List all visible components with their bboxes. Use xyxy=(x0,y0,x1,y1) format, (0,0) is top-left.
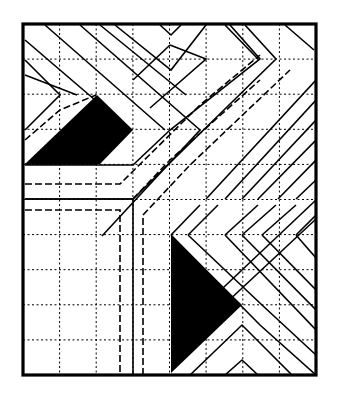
dashed-seam-lines xyxy=(25,55,290,375)
solid-line xyxy=(206,200,316,304)
solid-line xyxy=(160,25,181,35)
quilt-pattern-diagram xyxy=(0,0,337,393)
solid-line xyxy=(25,199,133,375)
solid-line xyxy=(25,60,60,130)
solid-line xyxy=(25,25,276,199)
solid-line xyxy=(225,100,316,199)
solid-line xyxy=(296,215,316,235)
solid-line xyxy=(296,180,316,199)
solid-line xyxy=(150,45,206,108)
solid-line xyxy=(278,160,316,199)
solid-line xyxy=(285,25,314,50)
solid-line xyxy=(133,45,170,80)
solid-line xyxy=(225,360,258,375)
solid-line xyxy=(296,235,316,258)
solid-line xyxy=(225,205,258,235)
solid-line xyxy=(188,205,218,235)
solid-line xyxy=(171,205,200,235)
solid-line xyxy=(225,25,258,59)
solid-line xyxy=(225,219,316,304)
solid-line xyxy=(242,205,276,235)
